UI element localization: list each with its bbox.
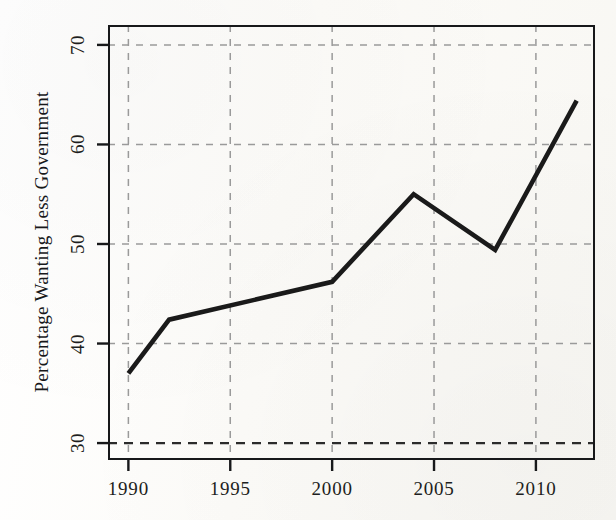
x-tick-label: 1990 xyxy=(108,478,149,500)
x-tick-label: 1995 xyxy=(210,478,251,500)
y-axis-title: Percentage Wanting Less Government xyxy=(31,91,53,392)
plot-frame-box xyxy=(108,25,595,460)
figure-page: Percentage Wanting Less Government 30405… xyxy=(0,0,616,520)
y-tick-label: 70 xyxy=(67,35,89,55)
x-tick-label: 2010 xyxy=(515,478,556,500)
y-axis-tick-marks xyxy=(97,45,108,443)
y-tick-label: 50 xyxy=(67,234,89,254)
x-tick-label: 2000 xyxy=(312,478,353,500)
y-tick-label: 30 xyxy=(67,433,89,453)
x-axis-tick-marks xyxy=(128,460,536,471)
x-tick-label: 2005 xyxy=(413,478,454,500)
caption-fragment xyxy=(108,508,438,520)
y-tick-label: 60 xyxy=(67,134,89,154)
y-tick-label: 40 xyxy=(67,334,89,354)
